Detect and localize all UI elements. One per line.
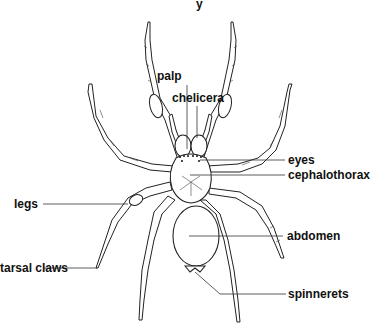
label-legs: legs <box>14 197 38 211</box>
third-left-leg <box>96 182 172 268</box>
label-palp: palp <box>157 69 182 83</box>
label-eyes: eyes <box>288 153 315 167</box>
spider-diagram <box>0 0 381 329</box>
second-left-leg <box>88 84 174 172</box>
label-spinnerets: spinnerets <box>288 287 349 301</box>
label-abdomen: abdomen <box>287 229 340 243</box>
label-tarsal-claws: tarsal claws <box>0 261 68 275</box>
label-chelicera: chelicera <box>172 91 224 105</box>
cephalothorax <box>170 154 211 203</box>
label-cephalothorax: cephalothorax <box>288 168 370 182</box>
spinnerets-shape <box>185 266 205 272</box>
rear-left-leg <box>139 196 175 320</box>
